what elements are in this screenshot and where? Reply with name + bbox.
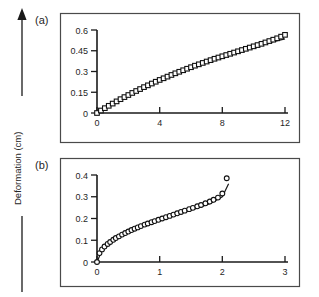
panel-letter-b: (b) (35, 159, 48, 171)
shared-axis-label: Deformation (cm) (12, 132, 23, 205)
panel-b-xtick-1: 1 (157, 267, 162, 277)
panel-a-ytick-3: 0.45 (70, 46, 88, 56)
panel-b-xtick-0: 0 (94, 267, 99, 277)
figure-container: Deformation (cm) (a) 0 0.15 0.3 0.45 (0, 0, 319, 297)
deformation-figure-svg: Deformation (cm) (a) 0 0.15 0.3 0.45 (0, 0, 319, 297)
panel-a-ytick-1: 0.15 (70, 88, 88, 98)
panel-a-xtick-3: 12 (280, 118, 290, 128)
panel-a-ytick-0: 0 (83, 109, 88, 119)
panel-a-xtick-1: 4 (157, 118, 162, 128)
up-arrow-icon (17, 8, 26, 96)
panel-b-ytick-3: 0.3 (75, 192, 88, 202)
data-marker (95, 260, 100, 265)
panel-b-ytick-4: 0.4 (75, 171, 88, 181)
panel-b-ytick-0: 0 (83, 258, 88, 268)
panel-b-xtick-2: 2 (220, 267, 225, 277)
panel-a-ytick-2: 0.3 (75, 67, 88, 77)
panel-b-ytick-1: 0.1 (75, 236, 88, 246)
panel-b: 0 0.1 0.2 0.3 0.4 0 1 2 3 (61, 159, 300, 287)
panel-letter-a: (a) (35, 14, 48, 26)
panel-a-ytick-4: 0.6 (75, 26, 88, 36)
panel-a: 0 0.15 0.3 0.45 0.6 0 4 8 12 (61, 14, 300, 143)
data-marker (283, 33, 288, 38)
panel-a-xtick-0: 0 (94, 118, 99, 128)
data-marker (220, 191, 225, 196)
panel-b-xtick-3: 3 (282, 267, 287, 277)
data-marker (216, 195, 221, 200)
panel-a-xtick-2: 8 (220, 118, 225, 128)
shared-y-axis-group: Deformation (cm) (12, 8, 27, 292)
panel-b-ytick-2: 0.2 (75, 214, 88, 224)
data-marker (224, 176, 229, 181)
